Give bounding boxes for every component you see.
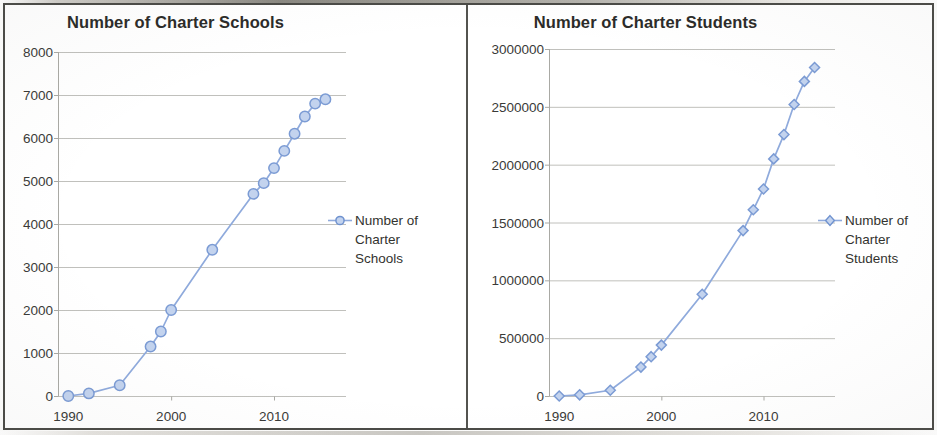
y-axis-tick-label: 1000: [23, 346, 53, 361]
legend-label-line: Number of: [845, 213, 908, 228]
y-axis-tick-label: 0: [536, 389, 544, 404]
page-bottom-edge: [0, 431, 937, 435]
data-point-marker[interactable]: [554, 391, 564, 401]
data-point-marker[interactable]: [779, 130, 789, 140]
data-point-marker[interactable]: [63, 391, 73, 401]
y-axis-tick-label: 1000000: [491, 273, 544, 288]
legend-label-charter-students: Number of Charter Students: [845, 211, 908, 268]
data-point-marker[interactable]: [748, 205, 758, 215]
y-axis-tick-label: 7000: [23, 88, 53, 103]
legend-label-line: Students: [845, 251, 898, 266]
legend-entry[interactable]: Number of Charter Students: [817, 211, 908, 268]
y-axis-tick-label: 2000: [23, 303, 53, 318]
plot-area-charter-students: [549, 49, 835, 396]
data-point-marker[interactable]: [759, 184, 769, 194]
figure-page: Number of Charter Schools Number of Char…: [0, 0, 937, 435]
legend-label-line: Charter: [845, 232, 890, 247]
data-point-marker[interactable]: [769, 154, 779, 164]
chart-legend-charter-students: Number of Charter Students: [817, 211, 908, 268]
y-axis-tick-label: 5000: [23, 174, 53, 189]
data-line: [559, 68, 814, 396]
y-axis-tick-label: 3000000: [491, 42, 544, 57]
chart-panel-charter-schools: Number of Charter Schools Number of Char…: [5, 5, 466, 430]
x-axis-tick-label: 2010: [748, 409, 778, 424]
data-point-marker[interactable]: [259, 178, 269, 188]
page-top-edge: [0, 0, 937, 3]
data-point-marker[interactable]: [269, 163, 279, 173]
legend-label-line: Number of: [355, 213, 418, 228]
x-axis-tick-label: 2000: [156, 409, 186, 424]
data-line: [68, 99, 325, 396]
chart-canvas: [58, 52, 346, 396]
y-axis-tick-label: 4000: [23, 217, 53, 232]
y-axis-tick-label: 500000: [499, 331, 544, 346]
data-point-marker[interactable]: [156, 326, 166, 336]
panel-divider: [466, 5, 468, 428]
data-point-marker[interactable]: [115, 380, 125, 390]
data-point-marker[interactable]: [575, 390, 585, 400]
legend-label-line: Schools: [355, 251, 403, 266]
y-axis-tick-label: 3000: [23, 260, 53, 275]
chart-panel-charter-students: Number of Charter Students Number of Cha…: [469, 5, 932, 430]
y-axis-tick-label: 8000: [23, 45, 53, 60]
data-point-marker[interactable]: [310, 98, 320, 108]
y-axis-tick-label: 2500000: [491, 99, 544, 114]
x-axis-tick-label: 1990: [53, 409, 83, 424]
chart-legend-charter-schools: Number of Charter Schools: [327, 211, 418, 268]
chart-canvas: [549, 49, 835, 396]
data-point-marker[interactable]: [166, 305, 176, 315]
data-point-marker[interactable]: [300, 111, 310, 121]
x-axis-tick-label: 2000: [646, 409, 676, 424]
x-axis-tick-label: 1990: [544, 409, 574, 424]
legend-label-charter-schools: Number of Charter Schools: [355, 211, 418, 268]
y-axis-tick-label: 2000000: [491, 157, 544, 172]
y-axis-tick-label: 6000: [23, 131, 53, 146]
plot-area-charter-schools: [58, 52, 346, 396]
data-point-marker[interactable]: [207, 245, 217, 255]
legend-marker-diamond-icon: [817, 211, 843, 230]
chart-title-charter-schools: Number of Charter Schools: [5, 13, 466, 32]
data-point-marker[interactable]: [84, 388, 94, 398]
data-point-marker[interactable]: [279, 146, 289, 156]
data-point-marker[interactable]: [738, 226, 748, 236]
y-axis-tick-label: 1500000: [491, 215, 544, 230]
data-point-marker[interactable]: [145, 341, 155, 351]
data-point-marker[interactable]: [289, 129, 299, 139]
data-point-marker[interactable]: [320, 94, 330, 104]
legend-marker-circle-icon: [327, 211, 353, 230]
chart-title-charter-students: Number of Charter Students: [469, 13, 932, 32]
data-point-marker[interactable]: [248, 189, 258, 199]
data-point-marker[interactable]: [789, 100, 799, 110]
legend-entry[interactable]: Number of Charter Schools: [327, 211, 418, 268]
legend-label-line: Charter: [355, 232, 400, 247]
x-axis-tick-label: 2010: [259, 409, 289, 424]
y-axis-tick-label: 0: [45, 389, 53, 404]
